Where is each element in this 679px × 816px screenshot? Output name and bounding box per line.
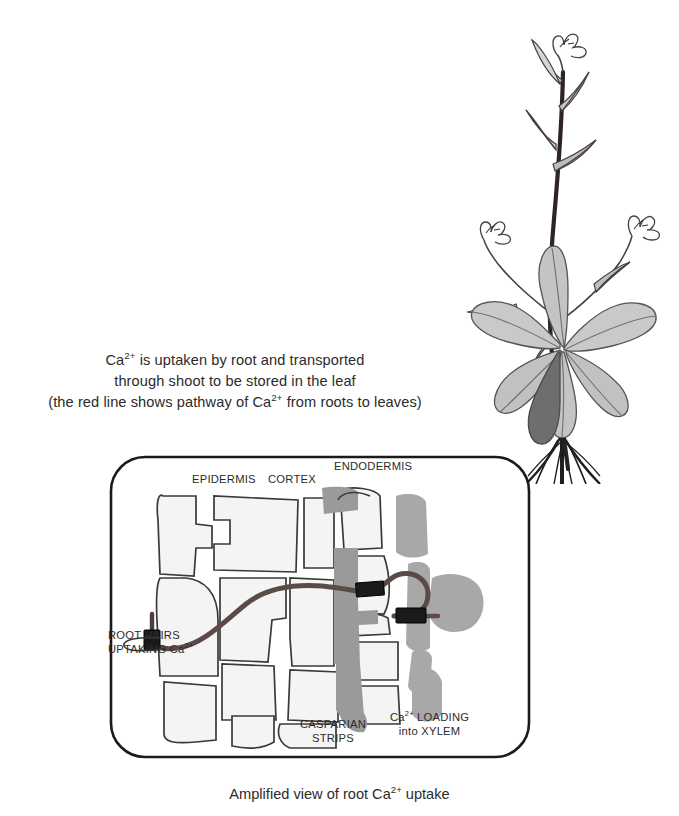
intro-line-2: through shoot to be stored in the leaf [0, 371, 470, 392]
label-root-hairs: ROOT HAIRS UPTAKING Ca2+ [108, 628, 193, 656]
leaf-rosette [471, 246, 656, 444]
intro-line-1: Ca2+ is uptaken by root and transported [0, 350, 470, 371]
cortex-cell-4 [232, 716, 274, 748]
label-xylem-loading: Ca2+ LOADING into XYLEM [390, 710, 469, 738]
label-cortex: CORTEX [268, 473, 316, 485]
root-cross-section-diagram: EPIDERMIS CORTEX ENDODERMIS ROOT HAIRS U… [108, 452, 533, 770]
cortex-cell-5 [290, 578, 334, 666]
intro-line-3: (the red line shows pathway of Ca2+ from… [0, 392, 470, 413]
label-casparian-strips: CASPARIAN STRIPS [288, 717, 378, 745]
root-system [526, 438, 600, 484]
label-xylem-line1: Ca2+ LOADING [390, 711, 469, 723]
intro-text-block: Ca2+ is uptaken by root and transported … [0, 350, 470, 413]
epidermis-cell-3 [164, 682, 216, 743]
rosette-leaf-right-upper [564, 303, 656, 351]
xylem-cell-lumen [428, 574, 484, 632]
label-casparian-line2: STRIPS [312, 732, 354, 744]
label-epidermis: EPIDERMIS [192, 473, 256, 485]
label-root-hairs-line1: ROOT HAIRS [108, 629, 180, 641]
arabidopsis-plant-illustration [452, 14, 672, 484]
flower-right [628, 216, 659, 240]
cortex-cell-6 [288, 670, 338, 722]
label-xylem-line2: into XYLEM [399, 725, 461, 737]
label-root-hairs-line2: UPTAKING Ca2+ [108, 643, 193, 655]
plant-svg [452, 14, 672, 484]
casparian-strip-top [322, 487, 358, 514]
label-casparian-line1: CASPARIAN [300, 718, 366, 730]
calcium-uptake-figure: Ca2+ is uptaken by root and transported … [0, 0, 679, 816]
cortex-cell-3 [222, 664, 276, 720]
transporter-endodermis [356, 581, 385, 597]
casparian-strip-branch [340, 610, 378, 626]
casparian-strip-upper [334, 548, 358, 602]
xylem-cell-upper [396, 494, 428, 558]
figure-caption: Amplified view of root Ca2+ uptake [0, 786, 679, 802]
transporter-xylem-loading [396, 608, 426, 623]
label-endodermis: ENDODERMIS [334, 460, 412, 472]
flower-top [553, 34, 586, 72]
epidermis-cell-2 [157, 578, 218, 676]
